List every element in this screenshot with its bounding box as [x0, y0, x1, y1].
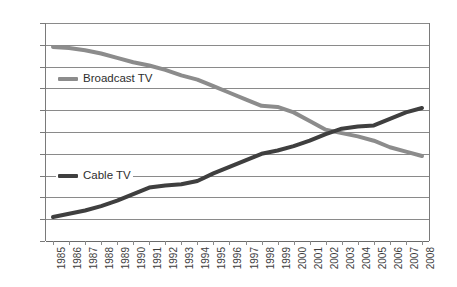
x-tick-label-1987: 1987 [89, 247, 99, 269]
x-tick-mark-2008 [422, 241, 423, 245]
legend-swatch-broadcast-tv [58, 77, 78, 81]
x-tick-mark-1991 [149, 241, 150, 245]
x-tick-label-2008: 2008 [426, 247, 436, 269]
x-tick-label-1997: 1997 [250, 247, 260, 269]
x-tick-label-2005: 2005 [378, 247, 388, 269]
x-axis: 1985198619871988198919901991199219931994… [45, 241, 430, 287]
x-tick-mark-1993 [181, 241, 182, 245]
x-tick-mark-1997 [246, 241, 247, 245]
x-tick-label-2000: 2000 [298, 247, 308, 269]
legend-item-broadcast-tv: Broadcast TV [56, 73, 154, 85]
x-tick-label-1990: 1990 [137, 247, 147, 269]
x-tick-mark-1992 [165, 241, 166, 245]
x-tick-label-1985: 1985 [57, 247, 67, 269]
x-tick-label-1993: 1993 [185, 247, 195, 269]
x-tick-label-2007: 2007 [410, 247, 420, 269]
x-tick-label-1991: 1991 [153, 247, 163, 269]
x-tick-mark-2005 [374, 241, 375, 245]
x-tick-mark-1998 [262, 241, 263, 245]
line-chart: 1009080706050403020100 19851986198719881… [0, 0, 457, 287]
x-tick-mark-2002 [326, 241, 327, 245]
x-tick-label-1988: 1988 [105, 247, 115, 269]
x-tick-mark-2003 [342, 241, 343, 245]
x-tick-label-1994: 1994 [201, 247, 211, 269]
series-line-broadcast-tv [53, 47, 422, 156]
x-tick-mark-1989 [117, 241, 118, 245]
x-tick-mark-1994 [197, 241, 198, 245]
x-tick-label-1999: 1999 [282, 247, 292, 269]
x-tick-mark-1987 [85, 241, 86, 245]
x-tick-mark-1988 [101, 241, 102, 245]
x-tick-mark-1985 [53, 241, 54, 245]
x-tick-label-1998: 1998 [266, 247, 276, 269]
x-tick-mark-1990 [133, 241, 134, 245]
series-layer [45, 23, 430, 241]
x-tick-mark-2007 [406, 241, 407, 245]
x-tick-label-1995: 1995 [217, 247, 227, 269]
x-tick-mark-1999 [278, 241, 279, 245]
x-tick-label-2001: 2001 [314, 247, 324, 269]
x-tick-mark-1996 [229, 241, 230, 245]
x-tick-label-2006: 2006 [394, 247, 404, 269]
x-tick-label-2002: 2002 [330, 247, 340, 269]
x-tick-mark-2004 [358, 241, 359, 245]
x-tick-label-1989: 1989 [121, 247, 131, 269]
x-tick-mark-2000 [294, 241, 295, 245]
legend-label-cable-tv: Cable TV [83, 170, 131, 182]
x-tick-label-2004: 2004 [362, 247, 372, 269]
legend-item-cable-tv: Cable TV [56, 170, 133, 182]
x-tick-mark-1986 [69, 241, 70, 245]
legend-swatch-cable-tv [58, 174, 78, 178]
x-tick-label-1996: 1996 [233, 247, 243, 269]
legend-label-broadcast-tv: Broadcast TV [83, 73, 152, 85]
x-tick-mark-2001 [310, 241, 311, 245]
x-tick-label-2003: 2003 [346, 247, 356, 269]
x-tick-mark-2006 [390, 241, 391, 245]
x-tick-label-1992: 1992 [169, 247, 179, 269]
x-tick-label-1986: 1986 [73, 247, 83, 269]
x-tick-mark-1995 [213, 241, 214, 245]
series-line-cable-tv [53, 108, 422, 217]
